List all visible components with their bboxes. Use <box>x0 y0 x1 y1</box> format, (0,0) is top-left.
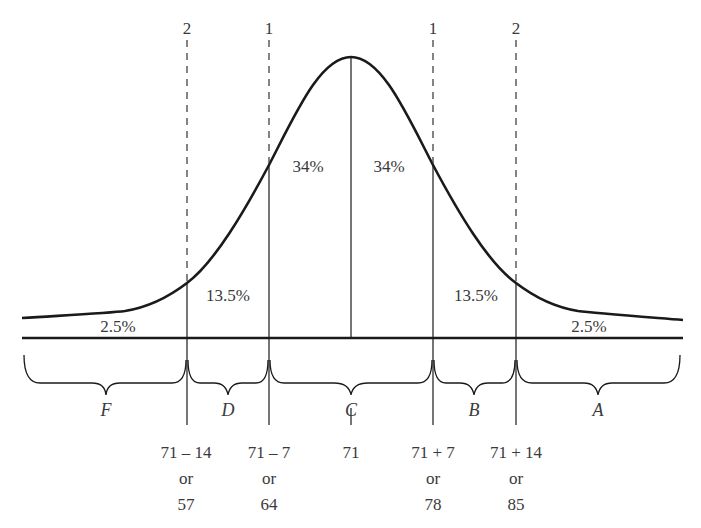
brace-C <box>270 360 432 395</box>
cutoff-or: or <box>262 469 277 488</box>
cutoff-value: 64 <box>261 495 279 514</box>
grade-letter-A: A <box>592 400 605 420</box>
cutoff-label-71: 71 <box>343 443 360 462</box>
grade-letter-C: C <box>345 400 358 420</box>
cutoff-label-57: 71 – 14 or 57 <box>161 443 213 514</box>
cutoff-label-78: 71 + 7 or 78 <box>411 443 455 514</box>
bell-curve <box>22 57 683 320</box>
normal-distribution-diagram: 2 1 1 2 2.5% 13.5% 34% 34% 13.5% 2.5% F … <box>0 0 701 528</box>
sd-label-right-1: 1 <box>429 19 438 38</box>
cutoff-label-85: 71 + 14 or 85 <box>490 443 543 514</box>
cutoff-expr: 71 – 7 <box>248 443 291 462</box>
percent-right-tail: 2.5% <box>571 317 606 336</box>
grade-letter-B: B <box>469 400 480 420</box>
brace-F <box>24 355 186 395</box>
cutoff-or: or <box>179 469 194 488</box>
cutoff-value: 78 <box>425 495 442 514</box>
brace-A <box>517 355 680 395</box>
cutoff-or: or <box>426 469 441 488</box>
sd-label-left-1: 1 <box>265 19 274 38</box>
percent-right-inner: 34% <box>373 157 404 176</box>
grade-letter-D: D <box>221 400 235 420</box>
cutoff-or: or <box>509 469 524 488</box>
percent-left-inner: 34% <box>292 157 323 176</box>
sd-label-left-2: 2 <box>183 19 192 38</box>
cutoff-expr: 71 <box>343 443 360 462</box>
brace-D <box>188 360 268 395</box>
brace-B <box>434 360 515 395</box>
cutoff-value: 85 <box>508 495 525 514</box>
cutoff-expr: 71 + 7 <box>411 443 455 462</box>
grade-letter-F: F <box>100 400 113 420</box>
cutoff-expr: 71 + 14 <box>490 443 543 462</box>
sd-label-right-2: 2 <box>512 19 521 38</box>
cutoff-label-64: 71 – 7 or 64 <box>248 443 291 514</box>
cutoff-expr: 71 – 14 <box>161 443 213 462</box>
percent-left-outer: 13.5% <box>206 286 250 305</box>
percent-left-tail: 2.5% <box>100 317 135 336</box>
percent-right-outer: 13.5% <box>454 286 498 305</box>
cutoff-value: 57 <box>178 495 196 514</box>
